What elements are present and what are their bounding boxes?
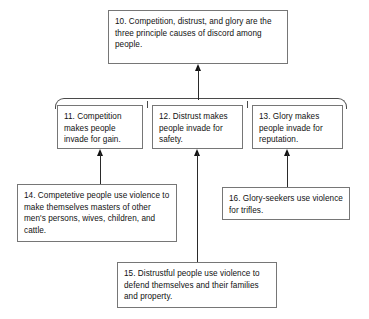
- bracket-tick-left: [147, 101, 148, 108]
- node-12-distrust[interactable]: 12. Distrust makes people invade for saf…: [152, 105, 243, 149]
- arrow-node15-to-node12: [190, 149, 205, 263]
- arrow-node14-to-node11: [93, 149, 108, 185]
- arrow-premises-to-conclusion: [191, 64, 206, 100]
- node-13-glory[interactable]: 13. Glory makes people invade for reputa…: [252, 105, 343, 149]
- node-15-distrustful-violence[interactable]: 15. Distrustful people use violence to d…: [117, 262, 277, 308]
- arrow-shaft: [197, 153, 198, 263]
- arrow-shaft: [100, 153, 101, 185]
- arrow-shaft: [287, 153, 288, 188]
- node-11-competition[interactable]: 11. Competition makes people invade for …: [57, 105, 143, 149]
- arrow-node16-to-node13: [280, 149, 295, 188]
- argument-map-diagram: 10. Competition, distrust, and glory are…: [0, 0, 369, 319]
- node-16-glory-seekers[interactable]: 16. Glory-seekers use violence for trifl…: [222, 187, 350, 220]
- node-14-competitive-violence[interactable]: 14. Competetive people use violence to m…: [17, 184, 177, 242]
- node-10-conclusion[interactable]: 10. Competition, distrust, and glory are…: [108, 10, 288, 64]
- arrow-shaft: [198, 68, 199, 100]
- bracket-tick-right: [247, 101, 248, 108]
